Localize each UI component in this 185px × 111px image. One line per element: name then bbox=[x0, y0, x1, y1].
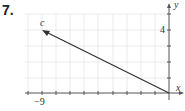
vector-label: c⃗ bbox=[40, 17, 52, 28]
y-axis-label: y bbox=[173, 0, 179, 10]
x-axis-label: x bbox=[175, 82, 181, 93]
y-axis bbox=[167, 6, 171, 100]
y-tick-label: 4 bbox=[160, 24, 165, 35]
x-axis bbox=[25, 91, 181, 95]
vector-arrowhead-icon bbox=[42, 30, 50, 36]
vector-c bbox=[42, 30, 169, 93]
y-axis-arrow-icon bbox=[167, 3, 171, 8]
vector-diagram: c⃗ y x −9 4 bbox=[0, 0, 185, 111]
x-tick-label: −9 bbox=[34, 96, 45, 107]
